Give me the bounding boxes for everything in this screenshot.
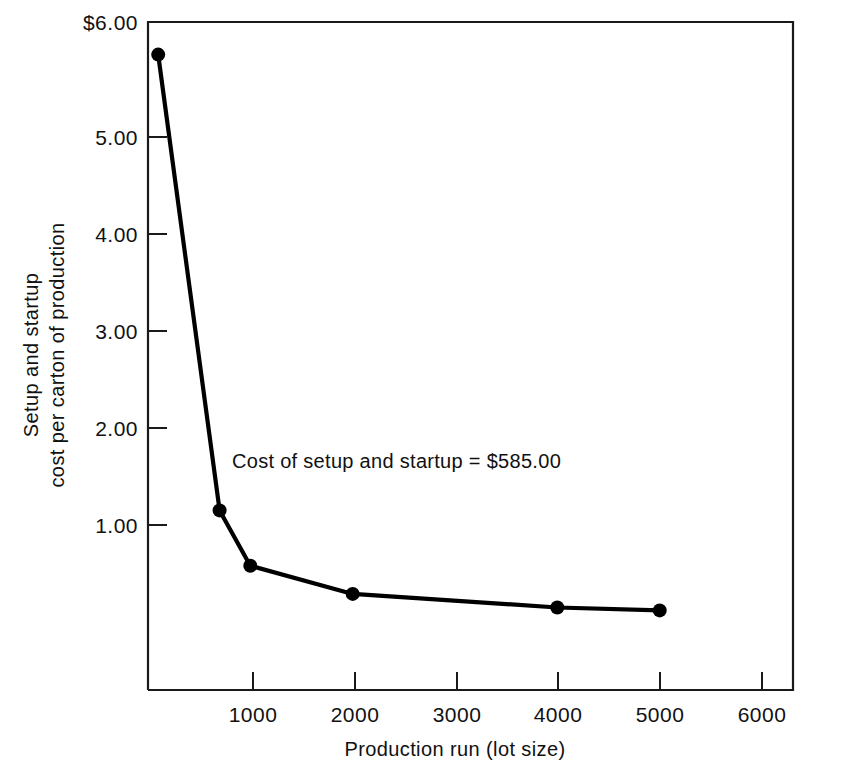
- data-point: [213, 503, 227, 517]
- data-point: [346, 587, 360, 601]
- x-axis-ticks: [253, 672, 762, 690]
- y-axis-title-line1: Setup and startup: [20, 273, 42, 438]
- y-tick-label-2: 2.00: [95, 417, 138, 440]
- y-tick-label-4: 4.00: [95, 223, 138, 246]
- x-tick-label-5000: 5000: [636, 703, 685, 726]
- chart-svg: $6.00 5.00 4.00 3.00 2.00 1.00 1000 2000…: [0, 0, 841, 768]
- data-point: [151, 48, 165, 62]
- data-series-line: [158, 55, 660, 611]
- data-point: [243, 559, 257, 573]
- x-tick-label-1000: 1000: [229, 703, 278, 726]
- y-tick-label-6: $6.00: [83, 11, 138, 34]
- x-tick-label-3000: 3000: [433, 703, 482, 726]
- data-series-markers: [151, 48, 667, 618]
- y-tick-label-3: 3.00: [95, 320, 138, 343]
- y-tick-label-1: 1.00: [95, 514, 138, 537]
- y-axis-title-line2: cost per carton of production: [46, 222, 68, 487]
- data-point: [653, 603, 667, 617]
- x-tick-label-4000: 4000: [534, 703, 583, 726]
- y-axis-ticks: [148, 137, 167, 525]
- annotation-label: Cost of setup and startup = $585.00: [232, 450, 561, 472]
- x-axis-title: Production run (lot size): [344, 738, 565, 760]
- x-tick-label-6000: 6000: [738, 703, 787, 726]
- chart-container: $6.00 5.00 4.00 3.00 2.00 1.00 1000 2000…: [0, 0, 841, 768]
- y-tick-label-5: 5.00: [95, 126, 138, 149]
- plot-frame: [148, 22, 793, 690]
- data-point: [550, 601, 564, 615]
- x-tick-label-2000: 2000: [331, 703, 380, 726]
